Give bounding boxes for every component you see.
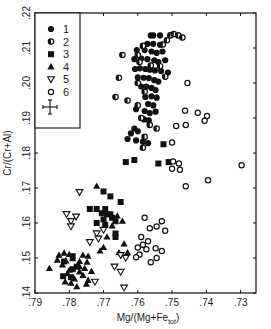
open-circle-marker (133, 255, 138, 260)
half-filled-circle-marker (148, 63, 153, 68)
open-triangle-down-marker (117, 269, 124, 275)
open-circle-marker (182, 108, 187, 113)
filled-circle-marker (147, 110, 153, 116)
filled-triangle-up-marker (124, 249, 131, 255)
x-tick-label: .78 (62, 297, 76, 308)
half-filled-circle-marker (180, 35, 185, 40)
filled-square-marker (48, 51, 54, 57)
filled-circle-marker (150, 41, 156, 47)
open-triangle-down-marker (68, 224, 75, 230)
x-axis-title-close: ) (176, 312, 179, 323)
filled-square-marker (99, 210, 105, 216)
open-circle-marker (170, 159, 175, 164)
y-tick-label: .17 (21, 181, 32, 195)
open-triangle-down-marker (76, 190, 83, 196)
y-tick-label: .20 (21, 76, 32, 90)
filled-circle-marker (144, 56, 150, 62)
filled-square-marker (113, 218, 119, 224)
half-filled-circle-marker (154, 126, 159, 131)
y-tick-label: .19 (21, 111, 32, 125)
open-triangle-down-marker (121, 285, 128, 291)
filled-triangle-up-marker (85, 252, 92, 258)
open-triangle-down-marker (92, 279, 99, 285)
y-tick-label: .14 (21, 286, 32, 300)
filled-triangle-up-marker (83, 258, 90, 264)
open-circle-marker (205, 178, 210, 183)
half-filled-circle-marker (157, 63, 162, 68)
x-axis-title-main: Mg/(Mg+Fe (117, 312, 169, 323)
filled-circle-marker (135, 128, 141, 134)
filled-square-marker (113, 234, 119, 240)
filled-square-marker (131, 157, 137, 163)
half-filled-circle-marker (140, 145, 145, 150)
open-circle-marker (153, 246, 158, 251)
filled-square-marker (101, 189, 107, 195)
open-circle-marker (183, 184, 188, 189)
open-circle-marker (183, 122, 188, 127)
filled-circle-marker (153, 87, 159, 93)
half-filled-circle-marker (113, 94, 118, 99)
open-circle-marker (159, 219, 164, 224)
filled-triangle-up-marker (46, 265, 53, 271)
open-circle-marker (239, 163, 244, 168)
series-1 (124, 32, 171, 146)
open-circle-marker (176, 161, 181, 166)
series-2 (113, 31, 185, 150)
open-circle-marker (154, 255, 159, 260)
half-filled-circle-marker (139, 115, 144, 120)
filled-square-marker (155, 161, 161, 167)
half-filled-circle-marker (135, 52, 140, 57)
filled-triangle-up-marker (61, 249, 68, 255)
filled-circle-marker (155, 79, 161, 85)
filled-circle-marker (133, 137, 139, 143)
half-filled-circle-marker (160, 42, 165, 47)
half-filled-circle-marker (125, 98, 130, 103)
open-triangle-down-marker (122, 255, 129, 261)
filled-triangle-up-marker (103, 233, 110, 239)
half-filled-circle-marker (137, 59, 142, 64)
open-circle-marker (48, 89, 53, 94)
legend-label: 1 (63, 23, 69, 35)
half-filled-circle-marker (135, 103, 140, 108)
open-circle-marker (142, 215, 147, 220)
legend-label: 2 (63, 36, 69, 48)
x-tick-label: .74 (199, 297, 213, 308)
open-circle-marker (195, 110, 200, 115)
legend-label: 3 (63, 48, 69, 60)
legend-label: 5 (63, 73, 69, 85)
filled-triangle-up-marker (120, 240, 127, 246)
open-circle-marker (139, 234, 144, 239)
filled-triangle-up-marker (79, 251, 86, 257)
filled-circle-marker (150, 102, 156, 108)
filled-square-marker (107, 193, 113, 199)
half-filled-circle-marker (142, 134, 147, 139)
open-circle-marker (148, 260, 153, 265)
y-tick-label: .21 (21, 41, 32, 55)
open-circle-marker (154, 224, 159, 229)
filled-circle-marker (152, 67, 158, 73)
half-filled-circle-marker (135, 80, 140, 85)
half-filled-circle-marker (140, 43, 145, 48)
filled-circle-marker (159, 48, 165, 54)
open-circle-marker (202, 118, 207, 123)
legend-label: 6 (63, 86, 69, 98)
open-circle-marker (177, 167, 182, 172)
filled-circle-marker (157, 32, 163, 38)
filled-square-marker (123, 159, 129, 165)
open-triangle-down-marker (100, 227, 107, 233)
filled-circle-marker (146, 75, 152, 81)
x-axis-title: Mg/(Mg+Fetot) (117, 312, 180, 325)
filled-circle-marker (154, 50, 160, 56)
half-filled-circle-marker (163, 74, 168, 79)
y-tick-label: .15 (21, 251, 32, 265)
open-circle-marker (145, 239, 150, 244)
open-circle-marker (169, 140, 174, 145)
filled-circle-marker (137, 65, 143, 71)
half-filled-circle-marker (147, 122, 152, 127)
filled-circle-marker (128, 130, 134, 136)
open-triangle-down-marker (86, 240, 93, 246)
legend-label: 4 (63, 61, 69, 73)
x-tick-label: .73 (234, 297, 248, 308)
half-filled-circle-marker (48, 39, 53, 44)
y-tick-label: .16 (21, 216, 32, 230)
